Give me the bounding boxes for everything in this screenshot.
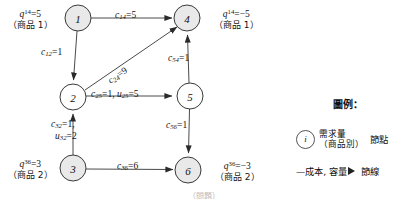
node-4-label: 4	[184, 13, 190, 25]
legend-title: 圖例：	[306, 96, 390, 111]
supply-label-q36-source-value: q36=3	[8, 156, 53, 170]
node-6-label: 6	[185, 165, 191, 177]
edge-cost-25: 1	[107, 89, 112, 99]
edge-1-2	[74, 31, 78, 80]
legend-edge-entry: —成本, 容量 節線	[296, 164, 379, 178]
supply-label-q36-source-commodity: （商品 2）	[8, 170, 53, 181]
edge-cap-25: 5	[134, 89, 139, 99]
supply-val-36a: =3	[31, 159, 41, 169]
edge-5-6	[189, 109, 190, 153]
edge-cost-14: 5	[131, 10, 136, 20]
edge-sub-32a: 32	[55, 122, 62, 129]
edge-cap-32: 2	[72, 131, 77, 141]
supply-val-14b: =−5	[234, 9, 249, 19]
supply-label-q36-sink: q36=−3 （商品 2）	[215, 158, 260, 183]
legend-node-icon: i	[296, 130, 315, 149]
supply-label-q36-source: q36=3 （商品 2）	[8, 156, 53, 181]
supply-label-q36-sink-value: q36=−3	[215, 158, 260, 172]
edge-label-c14: c14=5	[115, 10, 136, 22]
supply-label-q14-sink-commodity: （商品 1）	[214, 20, 259, 31]
supply-sup-14a: 14	[24, 8, 31, 15]
supply-sup-36a: 36	[24, 158, 31, 165]
supply-label-q14-sink-value: q14=−5	[214, 6, 259, 20]
edge-cost-32: 1	[67, 119, 72, 129]
legend-node-symbol: i	[304, 134, 307, 144]
edge-sub-14: 14	[119, 13, 126, 20]
legend-node-term: 節點	[370, 132, 388, 146]
legend-edge-icon: —成本, 容量	[296, 164, 355, 178]
edge-label-c36: c36=6	[117, 161, 138, 173]
edge-sub-12: 12	[45, 50, 52, 57]
supply-label-q14-source: q14=5 （商品 1）	[8, 6, 53, 31]
supply-label-q14-source-value: q14=5	[8, 6, 53, 20]
supply-label-q14-sink: q14=−5 （商品 1）	[214, 6, 259, 31]
edge-label-c12: c12=1	[41, 47, 62, 59]
edge-cost-56: 1	[182, 120, 187, 130]
edge-label-c32-line2: u32=2	[55, 131, 77, 143]
edge-sub-32b: 32	[60, 135, 67, 142]
edge-sub-25a: 25	[95, 92, 102, 99]
legend-node-desc-line1: 需求量	[319, 129, 364, 139]
legend-node-desc-line2: （商品別）	[319, 139, 364, 149]
edge-cost-36: 6	[133, 161, 138, 171]
network-flow-diagram: 1 4 2 5 3 6 q14=5 （商品 1） q14=−5 （商品 1） q…	[0, 0, 407, 199]
edge-sub-25b: 25	[122, 92, 129, 99]
edge-label-c25: c25=1, u25=5	[91, 89, 139, 101]
edge-label-c32: c32=1, u32=2	[51, 119, 77, 144]
edge-cost-12: 1	[57, 47, 62, 57]
legend-edge-label: —成本, 容量	[296, 164, 347, 178]
legend-node-entry: i 需求量 （商品別） 節點	[296, 129, 388, 149]
edge-label-c32-line1: c32=1,	[51, 119, 77, 131]
node-5-label: 5	[187, 91, 193, 103]
edge-sub-54: 54	[172, 56, 179, 63]
edge-label-c54: c54=1	[168, 53, 189, 65]
edge-sub-56: 56	[170, 123, 177, 130]
legend-node-desc: 需求量 （商品別）	[319, 129, 364, 149]
node-1-label: 1	[75, 13, 81, 25]
edge-2-4	[85, 27, 177, 90]
supply-val-36b: =−3	[235, 161, 250, 171]
arrow-head-icon	[348, 167, 355, 175]
legend: 圖例： i 需求量 （商品別） 節點 —成本, 容量 節線	[296, 96, 407, 111]
figure-caption: （問題）	[0, 190, 407, 199]
supply-val-14a: =5	[31, 9, 41, 19]
supply-label-q14-source-commodity: （商品 1）	[8, 20, 53, 31]
node-2-label: 2	[70, 92, 76, 104]
node-3-label: 3	[69, 163, 76, 175]
edge-cost-54: 1	[184, 53, 189, 63]
edge-sub-36: 36	[121, 164, 128, 171]
legend-edge-term: 節線	[361, 164, 379, 178]
edge-label-c56: c56=1	[166, 120, 187, 132]
supply-label-q36-sink-commodity: （商品 2）	[215, 172, 260, 183]
